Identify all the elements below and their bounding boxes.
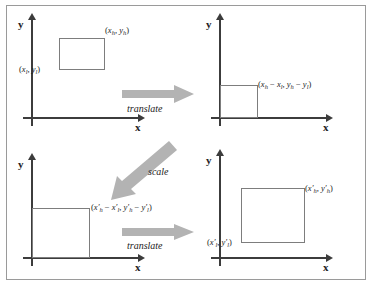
y-axis-arrowhead-icon	[216, 13, 224, 20]
y-axis-label: y	[206, 155, 212, 166]
panel-scaled: y x (x′h − x′l, y′h − y′l)	[7, 146, 187, 281]
y-axis-line	[219, 156, 221, 266]
x-axis-line	[211, 257, 328, 259]
coord-label-lower-left: (xl, yl)	[19, 65, 40, 74]
y-axis-arrowhead-icon	[28, 13, 36, 20]
arrow-translate-top-label: translate	[127, 104, 163, 114]
panel-original: y x (xh, yh) (xl, yl)	[7, 6, 187, 138]
panel-final: y x (x′h, y′h) (x′l, y′l)	[187, 146, 367, 281]
rectangle-translated	[220, 85, 258, 118]
x-axis-line	[23, 117, 140, 119]
x-axis-label: x	[135, 122, 141, 133]
rectangle-original	[59, 38, 105, 70]
figure-frame: y x (xh, yh) (xl, yl) translate	[6, 5, 366, 280]
y-axis-label: y	[206, 19, 212, 30]
y-axis-label: y	[18, 19, 24, 30]
x-axis-label: x	[323, 262, 329, 273]
panel-translated: y x (xh − xl, yh − yl)	[187, 6, 367, 138]
arrow-translate-bottom-label: translate	[127, 241, 163, 251]
coord-label-upper-right: (x′h − x′l, y′h − y′l)	[91, 203, 152, 212]
coord-label-upper-right: (xh, yh)	[105, 26, 129, 35]
rectangle-scaled	[32, 208, 90, 258]
figure-root: y x (xh, yh) (xl, yl) translate	[0, 0, 373, 288]
coord-label-upper-right: (xh − xl, yh − yl)	[258, 80, 311, 89]
y-axis-arrowhead-icon	[216, 149, 224, 156]
coord-label-lower-left: (x′l, y′l)	[207, 238, 232, 247]
x-axis-label: x	[135, 262, 141, 273]
x-axis-label: x	[323, 122, 329, 133]
rectangle-final	[241, 188, 305, 243]
y-axis-label: y	[18, 159, 24, 170]
coord-label-upper-right: (x′h, y′h)	[305, 184, 333, 193]
y-axis-arrowhead-icon	[28, 153, 36, 160]
